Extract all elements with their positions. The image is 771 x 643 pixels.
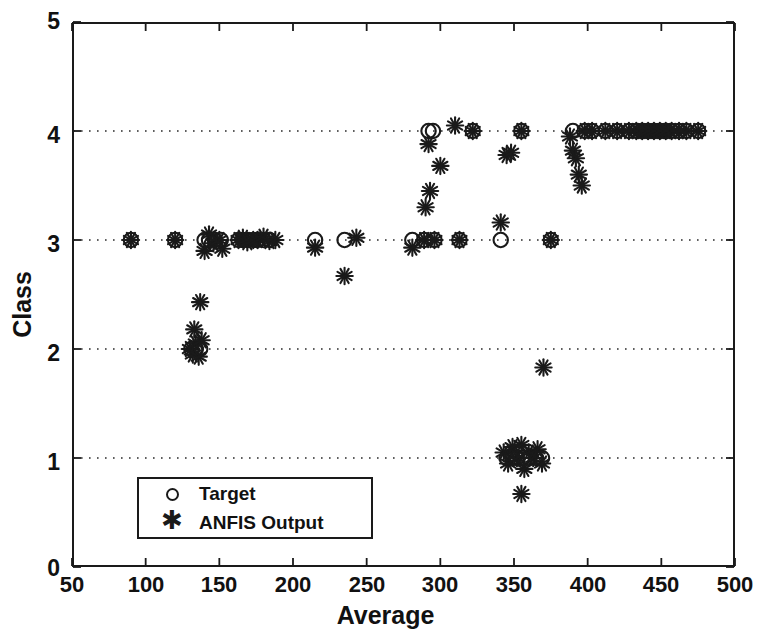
- xtick-label-100: 100: [111, 574, 181, 596]
- xtick-label-50: 50: [37, 574, 107, 596]
- asterisk-icon: ✱: [157, 508, 191, 539]
- ytick-label-1: 1: [14, 451, 60, 474]
- scatter-chart-figure: 5 4 3 2 1 0 50 100 150 200 250 300 350 4…: [0, 0, 771, 643]
- xtick-label-450: 450: [626, 574, 696, 596]
- xtick-label-150: 150: [184, 574, 254, 596]
- y-axis-title: Class: [8, 245, 37, 365]
- legend-label-anfis-output: ANFIS Output: [199, 512, 324, 534]
- ytick-label-4: 4: [14, 124, 60, 147]
- legend-entry-anfis-output: ✱ ANFIS Output: [139, 508, 375, 539]
- ytick-label-5: 5: [14, 10, 60, 33]
- xtick-label-400: 400: [553, 574, 623, 596]
- xtick-label-200: 200: [258, 574, 328, 596]
- chart-legend: Target ✱ ANFIS Output: [137, 477, 373, 539]
- xtick-label-350: 350: [479, 574, 549, 596]
- xtick-label-300: 300: [405, 574, 475, 596]
- legend-label-target: Target: [199, 483, 256, 505]
- xtick-label-250: 250: [332, 574, 402, 596]
- x-axis-title: Average: [0, 601, 771, 630]
- xtick-label-500: 500: [700, 574, 770, 596]
